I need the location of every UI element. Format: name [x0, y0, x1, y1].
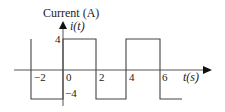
tick-label-6: 6: [162, 71, 168, 83]
current-waveform: [31, 39, 182, 99]
level-negative-label: −4: [65, 87, 77, 99]
x-axis-label: t(s): [183, 70, 199, 84]
y-axis-label: i(t): [70, 19, 85, 33]
tick-label-4: 4: [129, 71, 135, 83]
level-positive-label: 4: [55, 33, 61, 45]
tick-label-neg2: −2: [34, 71, 46, 83]
tick-label-0: 0: [66, 71, 72, 83]
tick-label-2: 2: [99, 71, 105, 83]
y-axis-arrow-icon: [59, 21, 67, 29]
x-axis-arrow-icon: [203, 66, 212, 74]
chart-title: Current (A): [43, 6, 99, 20]
square-wave-diagram: Current (A) i(t) t(s) 4 −4 −2 0 2 4 6: [0, 0, 225, 112]
